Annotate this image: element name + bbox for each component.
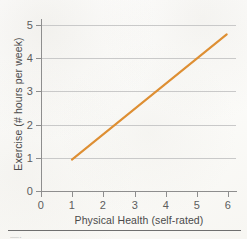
chart-figure: 5 4 3 2 1 0 0 1 2 3 4 5 6 Exercise (# ho… [0,0,247,239]
series-line-exercise-vs-health [72,34,227,159]
data-series-layer [0,0,247,239]
bottom-rule [8,230,241,231]
caption-fragment: —· [10,233,22,239]
